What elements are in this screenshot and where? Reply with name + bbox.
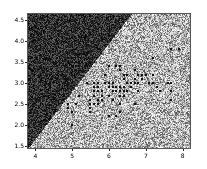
x-tick-label: 7 — [136, 153, 156, 159]
y-tick-mark — [25, 62, 27, 63]
x-tick-label: 4 — [25, 153, 45, 159]
y-tick-mark — [25, 125, 27, 126]
x-tick-mark — [72, 149, 73, 151]
axis-spine-right — [190, 13, 191, 149]
y-tick-mark — [25, 41, 27, 42]
axis-spine-left — [27, 13, 28, 149]
x-tick-mark — [183, 149, 184, 151]
x-tick-label: 5 — [62, 153, 82, 159]
y-tick-label: 3.5 — [2, 59, 24, 65]
x-tick-label: 6 — [99, 153, 119, 159]
y-tick-label: 3.0 — [2, 80, 24, 86]
y-tick-mark — [25, 20, 27, 21]
x-tick-mark — [35, 149, 36, 151]
x-tick-mark — [109, 149, 110, 151]
y-tick-label: 4.0 — [2, 38, 24, 44]
x-tick-mark — [146, 149, 147, 151]
x-tick-label: 8 — [173, 153, 193, 159]
axis-spine-top — [27, 13, 191, 14]
y-tick-label: 1.5 — [2, 143, 24, 149]
figure-container: 1.52.02.53.03.54.04.545678 — [0, 0, 207, 169]
decision-boundary-plot — [28, 14, 190, 148]
y-tick-mark — [25, 104, 27, 105]
y-tick-mark — [25, 146, 27, 147]
y-tick-label: 2.5 — [2, 101, 24, 107]
y-tick-label: 4.5 — [2, 17, 24, 23]
y-tick-label: 2.0 — [2, 122, 24, 128]
y-tick-mark — [25, 83, 27, 84]
